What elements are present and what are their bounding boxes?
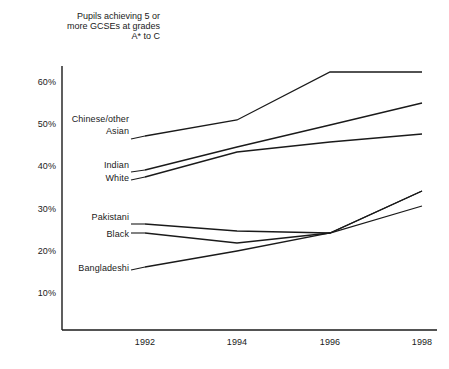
series-label-pakistani: Pakistani (31, 211, 129, 223)
y-tick-label-60: 60% (26, 76, 56, 88)
line-chart: Pupils achieving 5 or more GCSEs at grad… (0, 0, 449, 369)
chart-title-line-2: more GCSEs at grades (18, 21, 160, 31)
series-line-pakistani (145, 191, 422, 233)
series-label-bangladeshi: Bangladeshi (21, 262, 129, 274)
x-tick-label-1996: 1996 (308, 336, 352, 348)
series-label-white: White (31, 172, 129, 184)
series-line-bangladeshi (145, 191, 422, 267)
leader-line-indian (131, 170, 145, 172)
leader-line-bangladeshi (131, 267, 145, 270)
series-label-indian: Indian (31, 159, 129, 171)
series-label-black: Black (31, 228, 129, 240)
x-tick-label-1998: 1998 (400, 336, 444, 348)
x-tick-label-1992: 1992 (123, 336, 167, 348)
series-line-indian (145, 103, 422, 170)
leader-line-white (131, 177, 145, 180)
y-tick-label-10: 10% (26, 287, 56, 299)
series-line-white (145, 134, 422, 177)
series-label-chinese-other: Chinese/other (31, 113, 129, 125)
y-tick-label-20: 20% (26, 245, 56, 257)
chart-plot-area (0, 0, 449, 369)
chart-title: Pupils achieving 5 or more GCSEs at grad… (18, 11, 160, 41)
x-tick-label-1994: 1994 (215, 336, 259, 348)
chart-title-line-3: A* to C (18, 31, 160, 41)
series-label-asian: Asian (31, 125, 129, 137)
leader-line-chinese-other-asian (131, 136, 145, 139)
series-line-chinese-other-asian (145, 72, 422, 136)
series-line-black (145, 206, 422, 243)
chart-title-line-1: Pupils achieving 5 or (18, 11, 160, 21)
